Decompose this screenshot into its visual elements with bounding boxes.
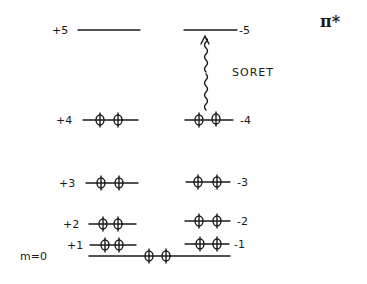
label-soret: SORET (232, 67, 274, 78)
energy-level-diagram (0, 0, 367, 284)
level-plus3 (86, 176, 138, 190)
soret-transition-arrow (201, 36, 209, 110)
label-plus1: +1 (67, 240, 83, 251)
level-plus2 (89, 217, 136, 231)
level-zero (89, 249, 230, 263)
label-minus1: -1 (234, 239, 245, 250)
label-minus5: -5 (239, 25, 250, 36)
level-minus4 (185, 112, 233, 127)
label-plus4: +4 (56, 115, 72, 126)
label-plus3: +3 (59, 178, 75, 189)
label-pi-star: π* (320, 16, 340, 27)
label-plus2: +2 (63, 219, 79, 230)
label-plus5: +5 (52, 25, 68, 36)
label-minus3: -3 (237, 177, 248, 188)
level-plus1 (90, 238, 136, 252)
level-minus1 (185, 237, 229, 251)
level-minus2 (185, 214, 230, 228)
level-plus4 (83, 113, 138, 127)
level-minus3 (186, 175, 230, 189)
label-m-zero: m=0 (20, 251, 47, 262)
label-minus4: -4 (240, 115, 251, 126)
label-minus2: -2 (237, 216, 248, 227)
